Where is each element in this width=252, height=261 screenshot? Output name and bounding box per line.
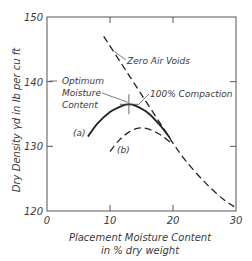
- compaction-chart: 0102030120130140150 Zero Air Voids100% C…: [0, 0, 252, 261]
- y-tick-label: 120: [24, 206, 43, 217]
- zero-air-voids-label: Zero Air Voids: [126, 56, 190, 66]
- x-axis-label-line-1: Placement Moisture Content: [69, 232, 212, 243]
- optimum-moisture-label-line: Moisture: [62, 88, 101, 98]
- optimum-moisture-label-line: Optimum: [62, 76, 104, 86]
- x-tick-label: 30: [230, 215, 243, 226]
- y-tick-label: 150: [24, 12, 43, 23]
- annotations: Zero Air Voids100% CompactionOptimumMois…: [49, 51, 233, 155]
- x-tick-label: 20: [167, 215, 180, 226]
- x-axis-label-line-2: in % dry weight: [101, 245, 180, 256]
- y-tick-label: 140: [24, 77, 43, 88]
- optimum-leader: [102, 93, 128, 102]
- curve-b-label: (b): [117, 145, 130, 155]
- optimum-moisture-label-line: Content: [62, 100, 98, 110]
- plot-frame: [47, 17, 236, 211]
- x-tick-label: 10: [104, 215, 117, 226]
- curve-a-label: (a): [73, 128, 86, 138]
- compaction-label: 100% Compaction: [150, 89, 233, 99]
- x-tick-label: 0: [44, 215, 50, 226]
- ticks: 0102030120130140150: [24, 12, 242, 226]
- y-tick-label: 130: [24, 141, 43, 152]
- y-axis-label: Dry Density γd in lb per cu ft: [11, 47, 22, 192]
- axes: [47, 17, 236, 211]
